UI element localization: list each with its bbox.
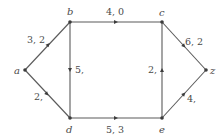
- node-d: [68, 116, 72, 120]
- node-c: [160, 20, 164, 24]
- edge-label-a-d: 2,: [34, 91, 43, 102]
- arrow-d-e-icon: [114, 116, 118, 120]
- node-label-c: c: [159, 7, 165, 18]
- arrow-b-c-icon: [114, 20, 118, 24]
- edge-label-b-c: 4, 0: [106, 6, 124, 17]
- node-b: [68, 20, 72, 24]
- edge-label-b-d: 5,: [75, 64, 84, 75]
- node-z: [204, 68, 208, 72]
- node-label-a: a: [14, 65, 20, 76]
- arrow-e-c-icon: [160, 68, 164, 72]
- node-e: [160, 116, 164, 120]
- arrow-b-d-icon: [68, 68, 72, 72]
- edge-label-e-z: 4,: [187, 93, 196, 104]
- edge-label-a-b: 3, 2: [27, 34, 45, 45]
- node-a: [23, 68, 27, 72]
- node-label-b: b: [67, 6, 73, 17]
- edge-label-e-c: 2,: [148, 64, 157, 75]
- node-label-e: e: [159, 124, 165, 135]
- edge-label-d-e: 5, 3: [106, 124, 124, 135]
- node-label-d: d: [66, 124, 72, 135]
- edge-label-c-z: 6, 2: [185, 36, 203, 47]
- node-label-z: z: [209, 65, 216, 76]
- flow-network-diagram: a b c d e z 3, 2 4, 0 6, 2 5, 2, 2, 5, 3…: [0, 0, 223, 139]
